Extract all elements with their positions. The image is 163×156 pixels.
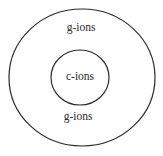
outer-bottom-label: g-ions bbox=[64, 111, 93, 123]
inner-label: c-ions bbox=[66, 71, 94, 83]
outer-top-label: g-ions bbox=[67, 22, 96, 34]
